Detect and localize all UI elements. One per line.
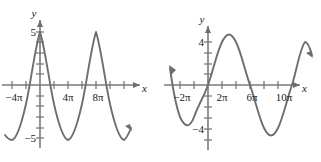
right-y-tick-label-top: 4: [199, 36, 205, 48]
left-x-axis-arrowhead: [133, 82, 140, 88]
left-x-tick-label-1: 4π: [62, 91, 74, 103]
left-x-tick-label-0: −4π: [5, 91, 23, 103]
right-x-tick-label-2: 6π: [246, 91, 258, 103]
left-y-tick-label-bottom: −5: [24, 132, 36, 144]
right-y-tick-label-bottom: −4: [192, 123, 204, 135]
left-y-axis-label: y: [31, 7, 37, 19]
left-y-axis-arrowhead: [37, 20, 43, 27]
right-x-tick-label-0: −2π: [173, 91, 191, 103]
right-x-tick-label-1: 2π: [216, 91, 228, 103]
right-y-axis-arrowhead: [205, 26, 211, 33]
right-x-axis-arrowhead: [293, 82, 300, 88]
left-graph-panel: y x 5 −5 −4π 4π 8π: [0, 0, 160, 162]
right-y-axis-label: y: [199, 13, 205, 25]
left-x-tick-label-2: 8π: [92, 91, 104, 103]
left-curve-end-arrowhead: [125, 124, 132, 131]
trig-graph-figure: y x 5 −5 −4π 4π 8π: [0, 0, 321, 162]
right-graph-svg: y x 4 −4 −2π 2π 6π 10π: [160, 0, 321, 162]
right-x-tick-label-3: 10π: [276, 91, 293, 103]
left-x-axis-label: x: [141, 82, 147, 94]
right-graph-panel: y x 4 −4 −2π 2π 6π 10π: [160, 0, 321, 162]
left-graph-svg: y x 5 −5 −4π 4π 8π: [0, 0, 160, 162]
right-x-axis-label: x: [301, 82, 307, 94]
left-y-tick-label-top: 5: [31, 26, 37, 38]
